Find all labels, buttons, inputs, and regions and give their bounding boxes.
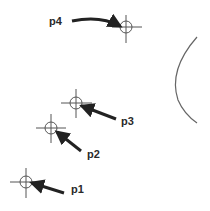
arrow-p4	[72, 19, 120, 26]
arrow-p2	[57, 132, 81, 151]
label-p3: p3	[121, 115, 134, 127]
diagram-canvas: p4 p3 p2 p1	[0, 0, 210, 211]
circle-arc	[175, 37, 197, 123]
crosshair-p4	[112, 15, 142, 43]
label-p2: p2	[87, 148, 100, 160]
label-p1: p1	[71, 183, 84, 195]
arrow-p3	[82, 106, 116, 119]
label-p4: p4	[49, 15, 63, 27]
arrow-p1	[32, 183, 64, 193]
crosshair-p2	[36, 114, 66, 143]
crosshair-p1	[10, 168, 42, 198]
crosshair-p3	[61, 89, 92, 118]
